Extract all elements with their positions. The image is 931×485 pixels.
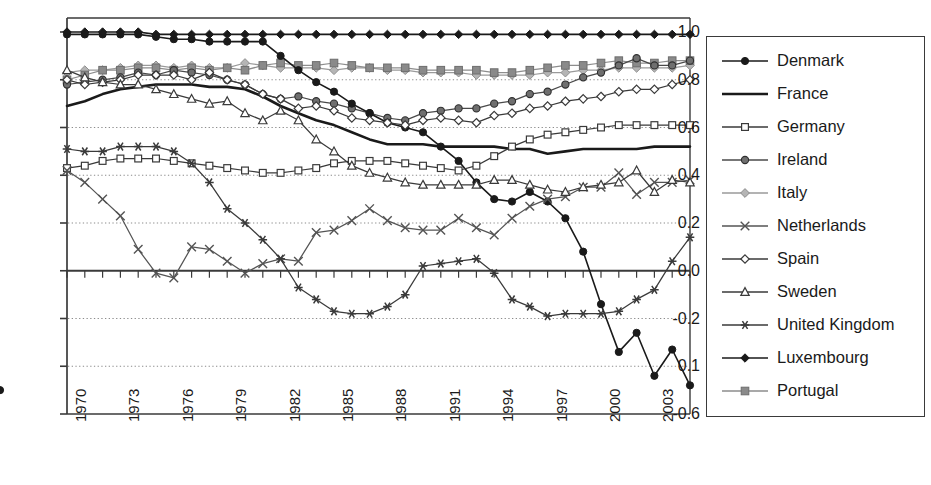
data-marker <box>491 153 498 160</box>
data-marker <box>223 97 231 105</box>
data-marker <box>562 215 569 222</box>
data-marker <box>580 74 587 81</box>
data-marker <box>277 59 285 67</box>
data-marker <box>741 57 748 64</box>
data-marker <box>152 143 161 151</box>
y-axis-tick-label: 0.2 <box>644 215 700 231</box>
x-axis-tick-label: 2003 <box>660 389 675 422</box>
data-marker <box>742 123 749 130</box>
data-marker <box>419 262 428 270</box>
legend-item-luxembourg[interactable]: Luxembourg <box>707 341 924 374</box>
data-marker <box>366 158 373 165</box>
x-axis-tick-label: 1994 <box>500 389 515 422</box>
data-marker <box>383 216 392 225</box>
data-marker <box>419 116 427 124</box>
legend-label: Spain <box>777 250 819 267</box>
legend-item-united-kingdom[interactable]: United Kingdom <box>707 308 924 341</box>
data-marker <box>633 55 640 62</box>
data-marker <box>276 30 284 38</box>
data-marker <box>562 81 569 88</box>
data-marker <box>401 30 409 38</box>
y-axis-tick-label: 1.0 <box>644 24 700 40</box>
data-marker <box>454 30 462 38</box>
data-marker <box>384 158 391 165</box>
legend-item-spain[interactable]: Spain <box>707 242 924 275</box>
data-marker <box>615 169 624 178</box>
data-marker <box>365 310 374 318</box>
data-marker <box>669 62 676 69</box>
data-marker <box>206 162 213 169</box>
legend-item-ireland[interactable]: Ireland <box>707 143 924 176</box>
data-marker <box>455 66 463 74</box>
y-axis-tick-label: 0.6 <box>644 120 700 136</box>
data-marker <box>562 129 569 136</box>
data-marker <box>98 147 107 155</box>
data-marker <box>116 212 125 221</box>
data-marker <box>508 296 517 304</box>
legend-marker-filled-diamond-icon <box>719 347 771 369</box>
data-marker <box>544 64 552 72</box>
legend-item-germany[interactable]: Germany <box>707 110 924 143</box>
legend-item-netherlands[interactable]: Netherlands <box>707 209 924 242</box>
data-marker <box>741 353 749 361</box>
data-marker <box>597 301 604 308</box>
data-marker <box>81 147 90 155</box>
legend-marker-open-triangle-icon <box>719 281 771 303</box>
data-marker <box>259 169 266 176</box>
data-marker <box>241 66 249 74</box>
data-marker <box>437 30 445 38</box>
data-marker <box>615 87 623 95</box>
data-marker <box>526 30 534 38</box>
x-axis-tick-label: 1988 <box>393 389 408 422</box>
data-marker <box>63 66 71 74</box>
data-marker <box>526 90 533 97</box>
legend-label: Italy <box>777 184 807 201</box>
data-marker <box>454 257 463 265</box>
data-marker <box>295 67 302 74</box>
data-marker <box>277 52 284 59</box>
data-marker <box>472 30 480 38</box>
series-line-sweden <box>67 70 690 192</box>
legend-item-italy[interactable]: Italy <box>707 176 924 209</box>
data-marker <box>508 98 515 105</box>
data-marker <box>579 310 588 318</box>
data-marker <box>508 69 516 77</box>
legend-label: France <box>777 85 828 102</box>
data-marker <box>241 109 249 117</box>
y-axis-tick-label: 0.8 <box>644 72 700 88</box>
data-marker <box>632 85 640 93</box>
data-marker <box>365 204 374 213</box>
data-marker <box>472 223 481 232</box>
data-marker <box>615 30 623 38</box>
x-axis-tick-label: 1985 <box>340 389 355 422</box>
legend-item-sweden[interactable]: Sweden <box>707 275 924 308</box>
legend-item-france[interactable]: France <box>707 77 924 110</box>
legend-marker-open-square-icon <box>719 116 771 138</box>
data-marker <box>98 195 107 204</box>
data-marker <box>597 59 605 67</box>
legend-item-portugal[interactable]: Portugal <box>707 374 924 407</box>
data-marker <box>330 59 338 67</box>
data-marker <box>491 100 498 107</box>
data-marker <box>312 62 320 70</box>
data-marker <box>526 136 533 143</box>
data-marker <box>259 62 267 70</box>
data-marker <box>313 79 320 86</box>
data-marker <box>365 30 373 38</box>
data-marker <box>259 259 268 268</box>
legend-label: Ireland <box>777 151 827 168</box>
data-marker <box>187 76 195 84</box>
chart-page: 1.00.80.60.40.20.0-0.20.1-0.6 1970197319… <box>0 0 931 485</box>
data-marker <box>330 147 338 155</box>
data-marker <box>508 109 516 117</box>
y-axis-tick-label: 0.1 <box>644 358 700 374</box>
legend-item-denmark[interactable]: Denmark <box>707 44 924 77</box>
legend-marker-open-diamond-icon <box>719 248 771 270</box>
data-marker <box>117 155 124 162</box>
data-marker <box>490 69 498 77</box>
data-marker <box>116 143 125 151</box>
data-marker <box>348 310 357 318</box>
data-marker <box>454 116 462 124</box>
data-marker <box>241 80 249 88</box>
data-marker <box>437 66 445 74</box>
